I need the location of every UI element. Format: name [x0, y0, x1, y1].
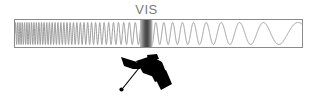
visible-band	[140, 20, 153, 47]
vis-label: VIS	[0, 2, 312, 17]
satellite-icon	[119, 54, 172, 92]
